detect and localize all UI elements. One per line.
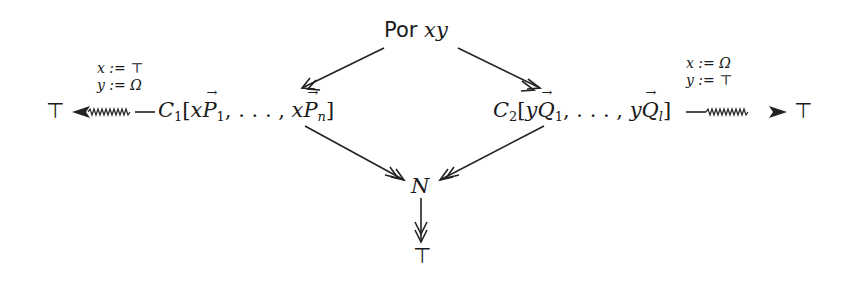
left-top-result: ⊤ bbox=[46, 101, 64, 122]
c1-index: 1 bbox=[174, 109, 182, 124]
c1-ellipsis: , . . . , bbox=[225, 98, 292, 122]
edge-por-to-c2 bbox=[458, 48, 540, 91]
left-label-line2: y := Ω bbox=[97, 77, 143, 94]
left-label-line1: x := ⊤ bbox=[97, 60, 143, 77]
c2-ellipsis: , . . . , bbox=[563, 98, 630, 122]
left-arrowhead bbox=[72, 106, 90, 118]
edge-por-to-c1 bbox=[302, 48, 384, 90]
right-node-c2: C2[yQ1, . . . , yQl] bbox=[493, 100, 671, 123]
c2-var-last: y bbox=[630, 98, 642, 122]
c1-last-sub: n bbox=[318, 109, 326, 124]
edge-c2-to-top-squiggly bbox=[686, 109, 748, 115]
bottom-node-n: N bbox=[411, 176, 429, 197]
c2-vec-first: Q bbox=[537, 100, 554, 121]
c1-first-sub: 1 bbox=[217, 109, 225, 124]
por-label: Por bbox=[384, 18, 417, 42]
right-assignment-label: x := Ω y := ⊤ bbox=[686, 55, 732, 89]
left-node-c1: C1[xP1, . . . , xPn] bbox=[158, 100, 334, 123]
right-label-line2: y := ⊤ bbox=[686, 72, 732, 89]
c1-var: x bbox=[191, 98, 203, 122]
edge-c1-to-top-squiggly bbox=[88, 109, 155, 115]
right-top-result: ⊤ bbox=[794, 101, 812, 122]
c1-var-last: x bbox=[292, 98, 304, 122]
c1-head: C bbox=[158, 98, 174, 122]
right-arrowhead bbox=[769, 106, 787, 118]
c2-head: C bbox=[493, 98, 509, 122]
top-node-por: Por xy bbox=[384, 20, 448, 41]
c2-index: 2 bbox=[509, 109, 517, 124]
c2-last-sub: l bbox=[659, 109, 663, 124]
right-label-line1: x := Ω bbox=[686, 55, 732, 72]
c2-first-sub: 1 bbox=[555, 109, 563, 124]
c2-vec-last: Q bbox=[642, 100, 659, 121]
c2-var: y bbox=[526, 98, 538, 122]
bottom-top-result: ⊤ bbox=[413, 246, 431, 267]
c1-vec-first: P bbox=[202, 100, 216, 121]
left-assignment-label: x := ⊤ y := Ω bbox=[97, 60, 143, 94]
por-vars: xy bbox=[424, 18, 448, 42]
edge-c1-to-n bbox=[305, 126, 404, 180]
edge-c2-to-n bbox=[440, 126, 544, 180]
c1-vec-last: P bbox=[303, 100, 317, 121]
edge-n-to-top bbox=[415, 198, 427, 242]
